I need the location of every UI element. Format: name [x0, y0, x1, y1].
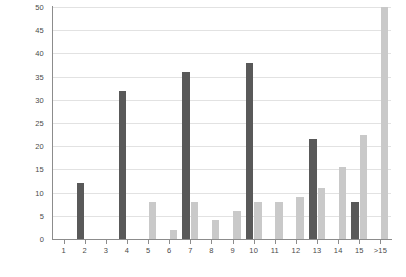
x-tick-6: [169, 240, 170, 244]
x-tick-label-12: 12: [292, 246, 301, 255]
bar-11-series-2: [275, 202, 283, 239]
bar-10-series-2: [254, 202, 262, 239]
y-axis-tick-labels: 05101520253035404550: [0, 0, 48, 246]
x-tick-label-13: 13: [313, 246, 322, 255]
x-tick-label-8: 8: [209, 246, 213, 255]
x-tick-5: [148, 240, 149, 244]
bar-9-series-2: [233, 211, 241, 239]
x-tick-gt15: [380, 240, 381, 244]
x-tick-label-3: 3: [104, 246, 108, 255]
bar-chart: 05101520253035404550 1234567891011121314…: [0, 0, 406, 277]
y-tick-label-30: 30: [35, 95, 44, 104]
bar-12-series-2: [296, 197, 304, 239]
x-tick-3: [106, 240, 107, 244]
x-tick-label-14: 14: [334, 246, 343, 255]
x-tick-label-1: 1: [61, 246, 65, 255]
y-tick-label-35: 35: [35, 72, 44, 81]
bar-7-series-1: [182, 72, 190, 239]
bar-14-series-2: [339, 167, 347, 239]
x-tick-15: [359, 240, 360, 244]
bar-series-container: [53, 7, 391, 239]
x-axis-tick-labels: 123456789101112131415>15: [53, 246, 392, 262]
bar-gt15-series-2: [381, 7, 389, 239]
x-tick-label-15: 15: [355, 246, 364, 255]
x-tick-label-4: 4: [125, 246, 129, 255]
bar-6-series-2: [170, 230, 178, 239]
bar-7-series-2: [191, 202, 199, 239]
y-tick-label-20: 20: [35, 142, 44, 151]
x-tick-10: [254, 240, 255, 244]
x-tick-8: [211, 240, 212, 244]
x-tick-13: [317, 240, 318, 244]
bar-4-series-1: [119, 91, 127, 239]
bar-13-series-2: [318, 188, 326, 239]
x-tick-2: [85, 240, 86, 244]
x-tick-label-11: 11: [271, 246, 279, 255]
x-tick-11: [275, 240, 276, 244]
x-tick-label-10: 10: [249, 246, 258, 255]
y-tick-label-50: 50: [35, 3, 44, 12]
y-tick-label-10: 10: [35, 188, 44, 197]
x-tick-12: [296, 240, 297, 244]
x-tick-1: [64, 240, 65, 244]
x-tick-7: [190, 240, 191, 244]
y-tick-label-40: 40: [35, 49, 44, 58]
y-tick-label-15: 15: [35, 165, 44, 174]
bar-8-series-2: [212, 220, 220, 239]
y-tick-label-5: 5: [40, 211, 44, 220]
bar-10-series-1: [246, 63, 254, 239]
x-tick-4: [127, 240, 128, 244]
x-tick-label-9: 9: [230, 246, 234, 255]
x-tick-14: [338, 240, 339, 244]
x-axis-line: [53, 239, 392, 240]
x-tick-label-7: 7: [188, 246, 192, 255]
bar-2-series-1: [77, 183, 85, 239]
bar-13-series-1: [309, 139, 317, 239]
bar-5-series-2: [149, 202, 157, 239]
bar-15-series-1: [351, 202, 359, 239]
y-tick-label-0: 0: [40, 235, 44, 244]
x-tick-label-6: 6: [167, 246, 171, 255]
x-tick-9: [233, 240, 234, 244]
y-tick-label-45: 45: [35, 26, 44, 35]
x-tick-label-gt15: >15: [374, 246, 387, 255]
bar-15-series-2: [360, 135, 368, 239]
y-tick-label-25: 25: [35, 119, 44, 128]
x-tick-label-5: 5: [146, 246, 150, 255]
x-tick-label-2: 2: [83, 246, 87, 255]
